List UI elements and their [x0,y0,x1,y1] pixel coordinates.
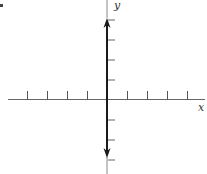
y-axis-ticks [108,20,115,160]
coordinate-plane [0,0,207,174]
y-axis-label: y [114,0,120,11]
x-axis-label: x [198,102,204,113]
